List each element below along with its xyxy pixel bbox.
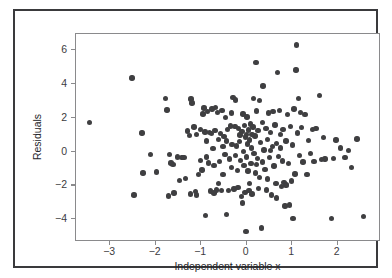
scatter-point [287, 202, 292, 207]
scatter-point [129, 75, 134, 80]
scatter-point [260, 120, 265, 125]
scatter-point [338, 145, 343, 150]
y-tick-label: −2 [55, 178, 67, 190]
scatter-point [349, 165, 354, 170]
scatter-point [265, 176, 270, 181]
scatter-point [286, 161, 291, 166]
y-tick-label: 2 [61, 111, 67, 123]
scatter-point [243, 229, 248, 234]
scatter-point [308, 151, 313, 156]
scatter-point [249, 132, 254, 137]
scatter-point [219, 188, 224, 193]
scatter-point [227, 156, 232, 161]
scatter-point [139, 130, 144, 135]
scatter-point [183, 176, 188, 181]
scatter-point [290, 142, 295, 147]
scatter-point [283, 183, 288, 188]
scatter-point [342, 155, 347, 160]
scatter-point [261, 147, 266, 152]
y-tick-label: 4 [61, 77, 67, 89]
scatter-point [302, 112, 307, 117]
scatter-point [210, 146, 215, 151]
scatter-point [277, 108, 282, 113]
scatter-point [299, 125, 304, 130]
scatter-point [280, 127, 285, 132]
scatter-point [131, 192, 136, 197]
scatter-point [354, 136, 359, 141]
scatter-point [249, 191, 254, 196]
scatter-point [167, 152, 172, 157]
scatter-point [288, 124, 293, 129]
scatter-point [257, 98, 262, 103]
scatter-point [237, 139, 242, 144]
scatter-point [293, 67, 298, 72]
y-tick-label: 0 [61, 145, 67, 157]
x-tick-label: 1 [288, 245, 294, 257]
figure-outer-border: −3−2−1012−4−20246 Independent variable x… [13, 9, 378, 268]
x-tick-label: −1 [194, 245, 206, 257]
y-axis-label: Residuals [31, 114, 43, 160]
scatter-point [271, 163, 276, 168]
scatter-point [148, 152, 153, 157]
scatter-point [204, 138, 209, 143]
scatter-point [220, 172, 225, 177]
scatter-point [273, 181, 278, 186]
scatter-point [189, 100, 194, 105]
scatter-point [241, 149, 246, 154]
scatter-point [322, 156, 327, 161]
scatter-point [249, 145, 254, 150]
scatter-point [255, 128, 260, 133]
scatter-point [233, 153, 238, 158]
scatter-point [300, 159, 305, 164]
scatter-point [333, 137, 338, 142]
scatter-point [229, 165, 234, 170]
scatter-point [254, 108, 259, 113]
scatter-point [237, 132, 242, 137]
scatter-point [294, 42, 299, 47]
y-tick-label: −4 [55, 212, 67, 224]
scatter-point [268, 148, 273, 153]
scatter-point [278, 132, 283, 137]
scatter-point [317, 93, 322, 98]
y-tick-mark [71, 218, 75, 219]
scatter-point [256, 186, 261, 191]
scatter-point [304, 172, 309, 177]
scatter-point [154, 169, 159, 174]
scatter-point [223, 115, 228, 120]
scatter-point [361, 214, 366, 219]
scatter-point [247, 181, 252, 186]
scatter-point [187, 133, 192, 138]
scatter-point [274, 195, 279, 200]
scatter-point [140, 170, 145, 175]
scatter-point [258, 140, 263, 145]
y-tick-mark [71, 49, 75, 50]
scatter-point [247, 137, 252, 142]
scatter-point [194, 132, 199, 137]
scatter-point [240, 200, 245, 205]
scatter-point [262, 167, 267, 172]
scatter-point [259, 225, 264, 230]
scatter-point [257, 175, 262, 180]
scatter-point [191, 124, 196, 129]
scatter-point [280, 158, 285, 163]
scatter-point [199, 167, 204, 172]
x-tick-label: −3 [103, 245, 115, 257]
scatter-point [181, 155, 186, 160]
scatter-point [204, 154, 209, 159]
scatter-point [235, 185, 240, 190]
scatter-point [331, 156, 336, 161]
scatter-point [217, 159, 222, 164]
scatter-point [211, 163, 216, 168]
scatter-point [321, 135, 326, 140]
scatter-point [170, 162, 175, 167]
scatter-point [241, 163, 246, 168]
scatter-point [203, 213, 208, 218]
scatter-point [346, 148, 351, 153]
scatter-point [224, 212, 229, 217]
scatter-point [306, 138, 311, 143]
scatter-plot-area [76, 34, 379, 240]
scatter-point [292, 171, 297, 176]
x-tick-label: −2 [149, 245, 161, 257]
y-tick-mark [71, 151, 75, 152]
scatter-point [311, 159, 316, 164]
